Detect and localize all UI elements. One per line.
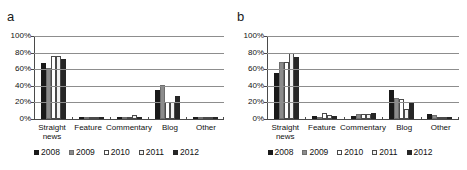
- x-label-feature: Feature: [304, 119, 341, 141]
- x-axis-labels-a: Straight news Feature Commentary Blog Ot…: [34, 119, 224, 141]
- x-label-other: Other: [422, 119, 459, 141]
- legend-item-2011[interactable]: 2011: [372, 148, 397, 157]
- bar-cluster: [312, 36, 337, 119]
- gridline: [267, 36, 459, 37]
- legend-swatch-icon: [337, 150, 342, 155]
- gridline: [267, 102, 459, 103]
- bar-group: [421, 36, 459, 119]
- y-axis-tick-mark: [264, 36, 267, 37]
- bar-group: [34, 36, 72, 119]
- gridline: [34, 36, 224, 37]
- y-axis-tick-mark: [264, 102, 267, 103]
- x-label-commentary: Commentary: [106, 119, 152, 141]
- legend-swatch-icon: [139, 150, 144, 155]
- y-axis-tick-mark: [264, 86, 267, 87]
- x-label-straight-news-line1: Straight: [271, 123, 299, 132]
- y-axis-tick-label: 40%: [248, 82, 264, 90]
- y-axis-tick-label: 100%: [11, 32, 31, 40]
- x-label-straight-news: Straight news: [267, 119, 304, 141]
- x-label-straight-news-line1: Straight: [38, 123, 66, 132]
- x-axis-tick-mark: [458, 117, 459, 120]
- x-label-feature: Feature: [70, 119, 106, 141]
- gridline: [267, 119, 459, 120]
- bar-group: [148, 36, 186, 119]
- legend-item-2009[interactable]: 2009: [302, 148, 328, 157]
- gridline: [34, 86, 224, 87]
- y-axis-tick-label: 0%: [19, 115, 31, 123]
- x-label-blog: Blog: [152, 119, 188, 141]
- gridline: [267, 69, 459, 70]
- bar-cluster: [427, 36, 452, 119]
- y-axis-tick-label: 20%: [15, 98, 31, 106]
- y-axis-tick-mark: [31, 36, 34, 37]
- chart-panel-a: a Straight news Feature Commentary Blog …: [0, 0, 233, 170]
- bar-cluster: [193, 36, 218, 119]
- x-label-straight-news-line2: news: [276, 132, 295, 141]
- y-axis-tick-label: 20%: [248, 98, 264, 106]
- legend-item-2012[interactable]: 2012: [407, 148, 433, 157]
- bar-cluster: [351, 36, 376, 119]
- legend-item-2008[interactable]: 2008: [34, 148, 60, 157]
- gridline: [267, 53, 459, 54]
- y-axis-tick-label: 60%: [15, 65, 31, 73]
- legend-swatch-icon: [104, 150, 109, 155]
- plot-wrapper-b: Straight news Feature Commentary Blog Ot…: [233, 0, 467, 170]
- legend-label: 2011: [379, 148, 397, 157]
- legend-label: 2011: [146, 148, 164, 157]
- gridline: [34, 69, 224, 70]
- legend-a: 20082009201020112012: [0, 148, 233, 157]
- y-axis-tick-mark: [264, 119, 267, 120]
- y-axis-tick-label: 60%: [248, 65, 264, 73]
- gridline: [34, 53, 224, 54]
- legend-swatch-icon: [173, 150, 178, 155]
- x-label-other: Other: [188, 119, 224, 141]
- legend-swatch-icon: [407, 150, 412, 155]
- plot-area-b: Straight news Feature Commentary Blog Ot…: [267, 36, 459, 119]
- plot-area-a: Straight news Feature Commentary Blog Ot…: [34, 36, 224, 119]
- x-axis-labels-b: Straight news Feature Commentary Blog Ot…: [267, 119, 459, 141]
- y-axis-tick-mark: [31, 102, 34, 103]
- bar-group: [305, 36, 343, 119]
- x-label-straight-news-line2: news: [43, 132, 62, 141]
- figure-two-panel-bar-charts: a Straight news Feature Commentary Blog …: [0, 0, 467, 170]
- bar-group: [267, 36, 305, 119]
- bar-cluster: [155, 36, 180, 119]
- bar-group: [72, 36, 110, 119]
- legend-label: 2010: [111, 148, 130, 157]
- bar-groups-b: [267, 36, 459, 119]
- y-axis-tick-mark: [31, 119, 34, 120]
- y-axis-tick-mark: [264, 53, 267, 54]
- y-axis-tick-label: 40%: [15, 82, 31, 90]
- legend-item-2011[interactable]: 2011: [139, 148, 164, 157]
- gridline: [34, 102, 224, 103]
- bar-group: [110, 36, 148, 119]
- legend-item-2009[interactable]: 2009: [69, 148, 95, 157]
- y-axis-tick-label: 100%: [244, 32, 264, 40]
- bar-cluster: [41, 36, 66, 119]
- legend-item-2010[interactable]: 2010: [337, 148, 363, 157]
- bar-2012: [294, 57, 299, 119]
- legend-label: 2009: [309, 148, 328, 157]
- x-label-commentary: Commentary: [340, 119, 386, 141]
- legend-swatch-icon: [372, 150, 377, 155]
- bar-2012: [409, 103, 414, 119]
- legend-label: 2008: [275, 148, 294, 157]
- legend-item-2012[interactable]: 2012: [173, 148, 199, 157]
- legend-swatch-icon: [302, 150, 307, 155]
- legend-b: 20082009201020112012: [233, 148, 467, 157]
- legend-swatch-icon: [69, 150, 74, 155]
- bar-cluster: [117, 36, 142, 119]
- x-label-blog: Blog: [386, 119, 423, 141]
- bar-group: [186, 36, 224, 119]
- gridline: [34, 119, 224, 120]
- y-axis-tick-label: 80%: [15, 49, 31, 57]
- legend-item-2008[interactable]: 2008: [268, 148, 294, 157]
- legend-label: 2008: [41, 148, 60, 157]
- bar-cluster: [389, 36, 414, 119]
- legend-label: 2010: [344, 148, 363, 157]
- bar-cluster: [274, 36, 299, 119]
- legend-swatch-icon: [268, 150, 273, 155]
- legend-swatch-icon: [34, 150, 39, 155]
- legend-item-2010[interactable]: 2010: [104, 148, 130, 157]
- y-axis-tick-label: 80%: [248, 49, 264, 57]
